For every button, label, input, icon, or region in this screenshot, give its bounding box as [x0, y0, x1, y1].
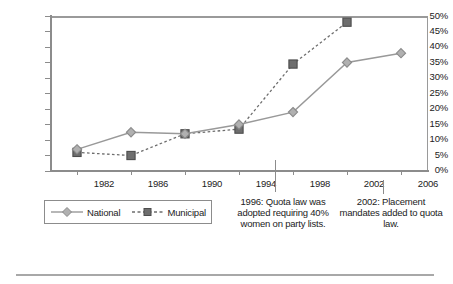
legend-swatch-municipal-square-icon — [131, 206, 165, 218]
data-point-municipal-1998 — [289, 60, 297, 68]
annotation-placement-2002: 2002: Placement mandates added to quota … — [336, 196, 446, 230]
annotation-leader-2002 — [383, 180, 384, 194]
legend-label-national: National — [87, 207, 120, 218]
legend-entry-municipal: Municipal — [131, 206, 206, 218]
series-national — [72, 49, 405, 154]
annotation-quota-1996: 1996: Quota law was adopted requiring 40… — [229, 196, 337, 230]
annotation-leader-1996 — [275, 160, 276, 192]
series-municipal — [73, 18, 351, 159]
chart-legend: National Municipal — [44, 200, 212, 224]
series-line-municipal — [77, 22, 347, 155]
series-line-national — [77, 53, 401, 149]
bottom-divider — [16, 274, 434, 276]
data-point-national-1986 — [126, 128, 135, 137]
data-point-national-2006 — [396, 49, 405, 58]
data-point-municipal-2002 — [343, 18, 351, 26]
legend-swatch-national-diamond-icon — [50, 206, 84, 218]
data-point-municipal-1986 — [127, 151, 135, 159]
legend-entry-national: National — [50, 206, 120, 218]
legend-label-municipal: Municipal — [168, 207, 206, 218]
